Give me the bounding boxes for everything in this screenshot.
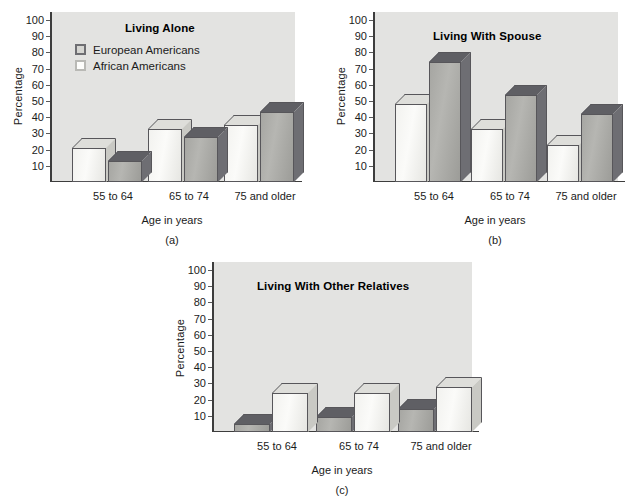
y-tickmark-90 xyxy=(369,36,373,37)
y-tick-40: 40 xyxy=(32,112,44,122)
y-tickmark-90 xyxy=(208,286,212,287)
bar-c-1-african xyxy=(354,383,400,432)
y-tickmark-60 xyxy=(369,85,373,86)
category-label-c-0: 55 to 64 xyxy=(257,440,297,452)
panel-a: Percentage 100908070605040302010 Living … xyxy=(0,0,321,250)
y-tick-labels-a: 100908070605040302010 xyxy=(18,0,44,200)
y-tick-80: 80 xyxy=(194,297,206,307)
bar-front-face xyxy=(234,424,270,432)
y-tick-30: 30 xyxy=(355,128,367,138)
bar-b-1-european xyxy=(505,85,547,182)
bar-front-face xyxy=(436,387,472,432)
bar-side-face xyxy=(613,104,623,182)
y-tick-60: 60 xyxy=(355,80,367,90)
light-swatch-icon xyxy=(75,60,86,71)
bar-b-2-european xyxy=(581,104,623,182)
bar-front-face xyxy=(429,62,461,182)
y-tickmark-30 xyxy=(208,383,212,384)
category-label-b-0: 55 to 64 xyxy=(414,190,454,202)
y-tickmark-20 xyxy=(369,150,373,151)
legend-label-european: European Americans xyxy=(93,44,200,56)
x-axis-title-b: Age in years xyxy=(464,214,525,226)
y-tickmark-100 xyxy=(208,270,212,271)
y-tick-80: 80 xyxy=(32,47,44,57)
y-tickmark-40 xyxy=(46,117,50,118)
y-tickmark-50 xyxy=(369,101,373,102)
bar-side-face xyxy=(537,85,547,182)
bar-front-face xyxy=(354,393,390,432)
y-tick-90: 90 xyxy=(355,31,367,41)
y-tick-40: 40 xyxy=(194,362,206,372)
y-tickmark-40 xyxy=(208,367,212,368)
plot-area-c: Living With Other Relatives xyxy=(212,262,472,432)
y-tick-20: 20 xyxy=(32,145,44,155)
category-label-a-1: 65 to 74 xyxy=(169,190,209,202)
bar-front-face xyxy=(260,112,294,182)
bar-side-face xyxy=(390,383,400,432)
legend-a: European Americans African Americans xyxy=(75,42,200,74)
caption-c: (c) xyxy=(336,484,349,496)
y-axis-line-a xyxy=(50,12,52,182)
y-tickmark-60 xyxy=(46,85,50,86)
chart-title-c: Living With Other Relatives xyxy=(257,280,409,292)
y-tick-50: 50 xyxy=(32,96,44,106)
y-tickmark-50 xyxy=(208,351,212,352)
y-tick-70: 70 xyxy=(32,64,44,74)
y-axis-line-b xyxy=(373,12,375,182)
y-tickmark-50 xyxy=(46,101,50,102)
y-tickmark-30 xyxy=(369,133,373,134)
y-tick-90: 90 xyxy=(32,31,44,41)
y-tick-80: 80 xyxy=(355,47,367,57)
category-label-c-1: 65 to 74 xyxy=(339,440,379,452)
legend-row-european: European Americans xyxy=(75,42,200,57)
bar-front-face xyxy=(184,137,218,182)
y-tickmark-20 xyxy=(208,400,212,401)
y-tick-70: 70 xyxy=(355,64,367,74)
y-tickmark-10 xyxy=(369,166,373,167)
legend-row-african: African Americans xyxy=(75,58,200,73)
y-tick-50: 50 xyxy=(194,346,206,356)
y-tick-10: 10 xyxy=(32,161,44,171)
legend-label-african: African Americans xyxy=(93,60,186,72)
y-tick-100: 100 xyxy=(188,265,206,275)
category-label-a-2: 75 and older xyxy=(234,190,295,202)
bar-a-1-european xyxy=(184,127,228,182)
plot-area-a: Living Alone European Americans African … xyxy=(50,12,295,182)
y-tickmark-100 xyxy=(46,20,50,21)
bar-front-face xyxy=(72,148,106,182)
y-tick-60: 60 xyxy=(32,80,44,90)
category-label-b-1: 65 to 74 xyxy=(490,190,530,202)
plot-area-b: Living With Spouse xyxy=(373,12,618,182)
x-axis-title-a: Age in years xyxy=(141,214,202,226)
bar-side-face xyxy=(308,383,318,432)
bar-front-face xyxy=(505,95,537,182)
chart-title-a: Living Alone xyxy=(125,22,195,34)
bar-front-face xyxy=(224,125,258,182)
caption-b: (b) xyxy=(488,234,501,246)
y-tickmark-80 xyxy=(208,302,212,303)
y-tickmark-60 xyxy=(208,335,212,336)
y-tickmark-10 xyxy=(46,166,50,167)
y-tick-70: 70 xyxy=(194,314,206,324)
y-tick-labels-b: 100908070605040302010 xyxy=(341,0,367,200)
y-tick-90: 90 xyxy=(194,281,206,291)
y-tickmark-90 xyxy=(46,36,50,37)
y-tickmark-20 xyxy=(46,150,50,151)
y-tick-30: 30 xyxy=(32,128,44,138)
bar-front-face xyxy=(547,145,579,182)
bar-side-face xyxy=(294,102,304,182)
bar-a-2-european xyxy=(260,102,304,182)
y-tick-100: 100 xyxy=(26,15,44,25)
chart-title-b: Living With Spouse xyxy=(433,30,541,42)
dark-swatch-icon xyxy=(75,44,86,55)
y-tickmark-80 xyxy=(369,52,373,53)
y-tickmark-100 xyxy=(369,20,373,21)
y-tick-60: 60 xyxy=(194,330,206,340)
y-tickmark-30 xyxy=(46,133,50,134)
y-tick-50: 50 xyxy=(355,96,367,106)
bar-side-face xyxy=(461,52,471,182)
y-tickmark-40 xyxy=(369,117,373,118)
category-label-a-0: 55 to 64 xyxy=(93,190,133,202)
y-tickmark-70 xyxy=(208,319,212,320)
y-tick-20: 20 xyxy=(194,395,206,405)
